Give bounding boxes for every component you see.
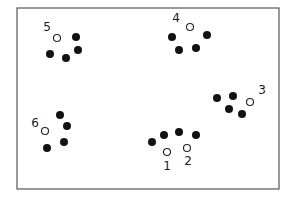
filled-dot (175, 128, 183, 136)
filled-dot (225, 105, 233, 113)
cluster-label: 1 (163, 159, 171, 173)
cluster-label: 2 (184, 154, 192, 168)
cluster-1: 1 (148, 128, 200, 173)
clusters-group: 123456 (31, 11, 266, 173)
open-dot (184, 145, 191, 152)
filled-dot (60, 138, 68, 146)
filled-dot (56, 111, 64, 119)
open-dot (42, 128, 49, 135)
open-dot (247, 99, 254, 106)
filled-dot (46, 50, 54, 58)
cluster-2: 2 (184, 145, 192, 169)
open-dot (54, 35, 61, 42)
filled-dot (238, 110, 246, 118)
cluster-label: 3 (258, 83, 266, 97)
filled-dot (192, 44, 200, 52)
cluster-3: 3 (213, 83, 266, 118)
filled-dot (63, 122, 71, 130)
filled-dot (62, 54, 70, 62)
filled-dot (213, 94, 221, 102)
filled-dot (192, 131, 200, 139)
cluster-diagram: 123456 (0, 0, 292, 202)
open-dot (187, 24, 194, 31)
filled-dot (72, 33, 80, 41)
filled-dot (160, 131, 168, 139)
open-dot (164, 149, 171, 156)
cluster-label: 4 (172, 11, 180, 25)
filled-dot (168, 33, 176, 41)
cluster-5: 5 (43, 20, 82, 62)
filled-dot (148, 138, 156, 146)
filled-dot (175, 46, 183, 54)
filled-dot (43, 144, 51, 152)
filled-dot (203, 31, 211, 39)
cluster-6: 6 (31, 111, 71, 152)
filled-dot (229, 92, 237, 100)
filled-dot (74, 46, 82, 54)
cluster-4: 4 (168, 11, 211, 54)
cluster-label: 5 (43, 20, 51, 34)
cluster-label: 6 (31, 116, 39, 130)
